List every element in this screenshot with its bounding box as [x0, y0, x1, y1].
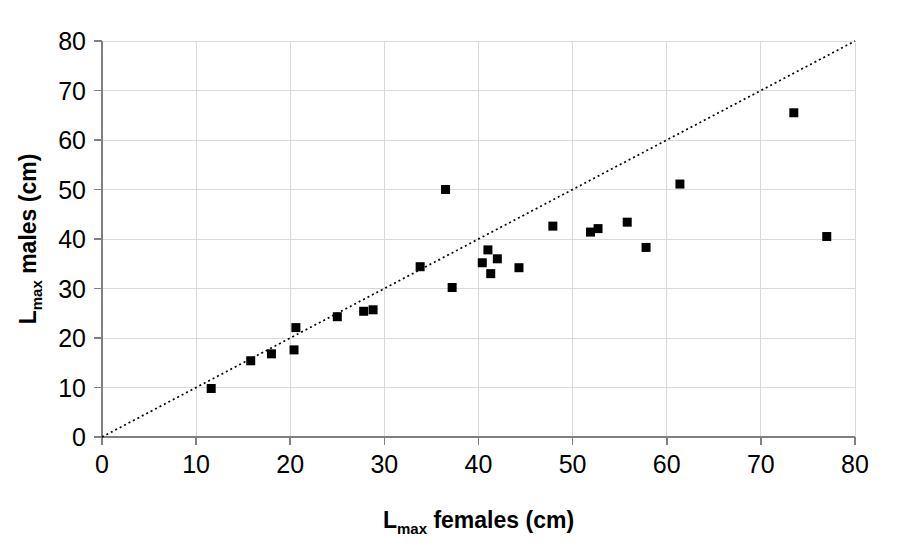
y-tick-label: 30 [58, 275, 86, 303]
data-point [675, 180, 684, 189]
x-tick-label: 10 [182, 450, 210, 478]
y-tick-label: 40 [58, 225, 86, 253]
data-point [623, 218, 632, 227]
y-tick-label: 60 [58, 126, 86, 154]
data-point [822, 232, 831, 241]
scatter-plot-figure: 0102030405060708001020304050607080 Lmax … [0, 0, 900, 549]
data-point [246, 356, 255, 365]
x-tick-label: 40 [465, 450, 493, 478]
data-point [359, 307, 368, 316]
x-tick-label: 70 [747, 450, 775, 478]
x-tick-label: 30 [370, 450, 398, 478]
data-point [594, 224, 603, 233]
data-point [493, 254, 502, 263]
y-axis-title-main: L [15, 310, 41, 324]
data-point [369, 305, 378, 314]
y-axis-title-subscript: max [28, 280, 45, 311]
y-tick-label: 50 [58, 176, 86, 204]
y-tick-label: 70 [58, 77, 86, 105]
y-tick-label: 80 [58, 27, 86, 55]
y-tick-label: 10 [58, 374, 86, 402]
x-axis-title: Lmax females (cm) [383, 507, 574, 537]
data-point [548, 222, 557, 231]
data-point [291, 323, 300, 332]
data-point [267, 349, 276, 358]
data-point [478, 258, 487, 267]
tick-labels-group: 0102030405060708001020304050607080 [58, 27, 869, 478]
y-tick-label: 20 [58, 324, 86, 352]
plot-canvas: 0102030405060708001020304050607080 Lmax … [0, 0, 900, 549]
y-axis-title: Lmax males (cm) [15, 154, 45, 325]
y-axis-title-rest: males (cm) [15, 154, 41, 281]
data-point [642, 243, 651, 252]
data-point [448, 283, 457, 292]
x-tick-label: 60 [653, 450, 681, 478]
data-point [789, 108, 798, 117]
data-point [290, 345, 299, 354]
x-axis-title-rest: females (cm) [427, 507, 574, 533]
axis-titles-group: Lmax females (cm)Lmax males (cm) [15, 154, 574, 537]
x-axis-title-main: L [383, 507, 397, 533]
x-tick-label: 50 [559, 450, 587, 478]
data-point [483, 245, 492, 254]
data-point [333, 312, 342, 321]
data-point [486, 269, 495, 278]
data-point [514, 263, 523, 272]
x-axis-title-subscript: max [397, 520, 428, 537]
y-tick-label: 0 [72, 423, 86, 451]
data-point [441, 185, 450, 194]
data-points-group [207, 108, 832, 393]
x-tick-label: 20 [276, 450, 304, 478]
data-point [207, 384, 216, 393]
x-tick-label: 0 [95, 450, 109, 478]
data-point [416, 262, 425, 271]
x-tick-label: 80 [841, 450, 869, 478]
